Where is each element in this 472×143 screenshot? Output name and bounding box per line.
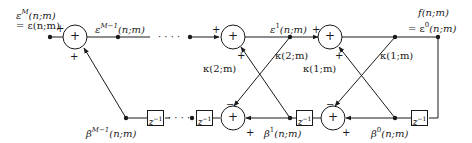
node-dot [116,35,120,39]
sign-plus: + [246,128,254,138]
node-dot [190,116,194,120]
node-dot [393,35,397,39]
node-dot [436,35,440,39]
sign-plus: + [342,128,350,138]
label-beta-0: β0(n;m) [371,125,408,139]
adder-plus: + [228,31,238,42]
sign-plus: + [237,51,245,61]
node-dot [188,35,192,39]
label-kappa1-upper: κ(1;m) [380,50,413,61]
ellipsis-bottom: · · · · [168,112,190,123]
label-eps-1: ε1(n;m) [270,21,307,35]
label-eps-0: = ε0(n;m) [408,20,456,34]
sign-plus: + [312,25,320,35]
adder-plus: + [328,112,338,123]
delay-box: z−1 [196,110,213,126]
sign-plus: + [212,25,220,35]
delay-box: z−1 [147,110,164,126]
node-dot [48,35,52,39]
label-kappa2-lower: κ(2;m) [203,63,236,74]
sign-plus: + [56,24,64,34]
ellipsis-top: · · · · [158,31,180,42]
label-eps-M: εM(n;m) [16,7,56,21]
sign-plus: + [70,52,78,62]
adder-plus: + [228,112,238,123]
label-eps-M-1: εM−1(n;m) [95,21,145,35]
label-kappa2-upper: κ(2;m) [275,50,308,61]
adder-plus: + [70,31,80,42]
label-f: f(n;m) [418,7,449,18]
node-dot [288,116,292,120]
sign-plus: + [335,51,343,61]
node-dot [124,116,128,120]
node-dot [393,116,397,120]
sign-minus: − [326,100,334,110]
label-eps-input: = ε(n;m) [16,20,60,31]
delay-box: z−1 [411,110,428,126]
label-beta-1: β1(n;m) [264,125,301,139]
node-dot [288,35,292,39]
wire-f-down [335,37,395,106]
delay-box: z−1 [296,110,313,126]
sign-minus: − [226,100,234,110]
wire-beta-to-adder [84,48,126,118]
adder-plus: + [325,31,335,42]
label-kappa1-lower: κ(1;m) [303,63,336,74]
wire-eps1-down [234,37,290,106]
label-beta-M-1: βM−1(n;m) [86,125,136,139]
